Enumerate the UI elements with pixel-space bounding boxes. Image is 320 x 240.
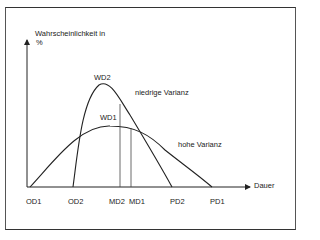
x-axis-label: Dauer xyxy=(254,182,274,190)
wd2-curve xyxy=(73,84,172,187)
high-variance-label: hohe Varianz xyxy=(178,141,222,149)
wd1-label: WD1 xyxy=(100,114,117,122)
tick-md2: MD2 xyxy=(109,198,125,206)
low-variance-label: niedrige Varianz xyxy=(135,89,189,97)
wd2-label: WD2 xyxy=(94,74,111,82)
tick-od1: OD1 xyxy=(26,198,41,206)
tick-md1: MD1 xyxy=(129,198,145,206)
tick-pd2: PD2 xyxy=(170,198,185,206)
tick-od2: OD2 xyxy=(68,198,83,206)
tick-pd1: PD1 xyxy=(210,198,225,206)
y-axis-label: Wahrscheinlichkeit in xyxy=(35,30,105,38)
wd1-curve xyxy=(30,126,212,187)
y-axis-label-unit: % xyxy=(36,39,43,47)
